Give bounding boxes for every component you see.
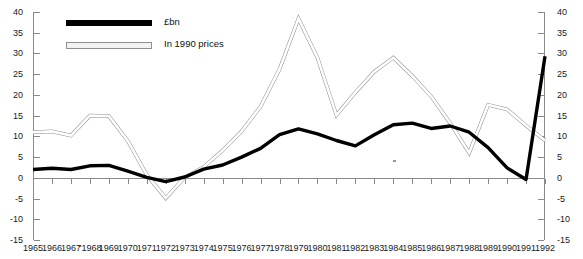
x-tick-label: 1988 bbox=[459, 243, 479, 253]
x-tick bbox=[545, 179, 546, 184]
legend-item-cash: £bn bbox=[66, 14, 246, 36]
x-tick-label: 1978 bbox=[270, 243, 290, 253]
x-tick-label: 1982 bbox=[345, 243, 365, 253]
x-tick-label: 1987 bbox=[440, 243, 460, 253]
y-tick-right bbox=[538, 240, 544, 241]
artifact-speck bbox=[393, 160, 396, 162]
x-tick-label: 1972 bbox=[156, 243, 176, 253]
x-axis-labels: 196519661967"196819691970197119721973197… bbox=[33, 243, 545, 257]
y-tick-label-left: 35 bbox=[0, 29, 23, 38]
y-tick-left bbox=[34, 240, 40, 241]
x-tick-label: 1979 bbox=[288, 243, 308, 253]
legend-item-real: In 1990 prices bbox=[66, 36, 246, 58]
chart-legend: £bn In 1990 prices bbox=[66, 14, 246, 58]
x-tick-label: 1990 bbox=[497, 243, 517, 253]
y-tick-label-left: 20 bbox=[0, 91, 23, 100]
y-tick-label-right: 0 bbox=[557, 174, 562, 183]
legend-swatch-cash bbox=[66, 20, 152, 26]
y-tick-label-right: 10 bbox=[557, 132, 567, 141]
y-tick-label-right: -5 bbox=[557, 195, 565, 204]
x-tick-label: 1976 bbox=[232, 243, 252, 253]
x-tick-label: 1992 bbox=[535, 243, 555, 253]
x-tick-label: 1983 bbox=[364, 243, 384, 253]
legend-swatch-real bbox=[66, 42, 152, 49]
x-tick-label: 1989 bbox=[478, 243, 498, 253]
y-tick-label-right: 15 bbox=[557, 112, 567, 121]
y-tick-label-right: -15 bbox=[557, 236, 570, 245]
x-tick-label: 1971 bbox=[137, 243, 157, 253]
y-tick-label-right: -10 bbox=[557, 215, 570, 224]
x-tick-label: 1974 bbox=[194, 243, 214, 253]
x-tick-label: 1966 bbox=[42, 243, 62, 253]
x-tick-label: 1981 bbox=[326, 243, 346, 253]
x-tick-label: 1991 bbox=[516, 243, 536, 253]
x-tick-label: 1969 bbox=[99, 243, 119, 253]
chart-container: 4035302520151050-5-10-15 403530252015105… bbox=[0, 0, 583, 259]
y-tick-label-right: 30 bbox=[557, 49, 567, 58]
y-tick-label-left: -10 bbox=[0, 215, 23, 224]
y-tick-label-left: 30 bbox=[0, 49, 23, 58]
x-tick-label: 1986 bbox=[421, 243, 441, 253]
y-tick-label-left: 40 bbox=[0, 8, 23, 17]
legend-label-real: In 1990 prices bbox=[164, 38, 224, 50]
y-tick-label-left: 10 bbox=[0, 132, 23, 141]
y-tick-label-right: 5 bbox=[557, 153, 562, 162]
y-tick-label-right: 40 bbox=[557, 8, 567, 17]
x-tick-label: 1985 bbox=[402, 243, 422, 253]
y-tick-label-left: -15 bbox=[0, 236, 23, 245]
y-tick-label-left: 0 bbox=[0, 174, 23, 183]
x-tick-label: 1975 bbox=[213, 243, 233, 253]
x-tick-label: 1984 bbox=[383, 243, 403, 253]
x-tick-label: 1965 bbox=[23, 243, 43, 253]
y-tick-label-left: 15 bbox=[0, 112, 23, 121]
x-tick-label: 1980 bbox=[307, 243, 327, 253]
y-tick-label-left: 5 bbox=[0, 153, 23, 162]
y-tick-label-right: 35 bbox=[557, 29, 567, 38]
x-tick-label: 1977 bbox=[251, 243, 271, 253]
legend-label-cash: £bn bbox=[164, 16, 180, 28]
x-tick-label: 1970 bbox=[118, 243, 138, 253]
y-tick-label-left: -5 bbox=[0, 195, 23, 204]
y-tick-label-right: 25 bbox=[557, 70, 567, 79]
y-tick-label-right: 20 bbox=[557, 91, 567, 100]
x-tick-label: 1973 bbox=[175, 243, 195, 253]
y-tick-label-left: 25 bbox=[0, 70, 23, 79]
